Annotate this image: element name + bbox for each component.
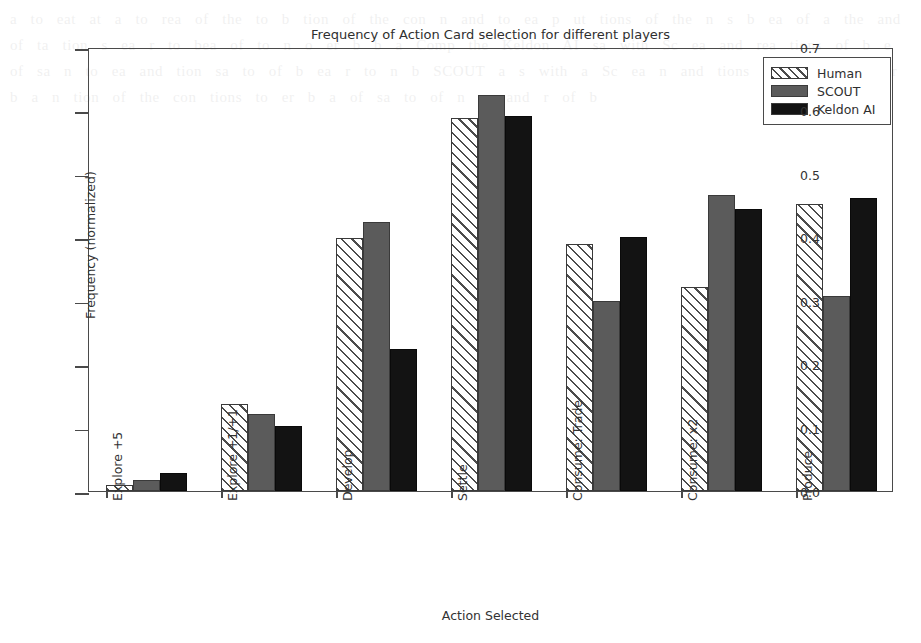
bar-keldon (390, 349, 417, 491)
bar-keldon (850, 198, 877, 491)
y-tick-label: 0.1 (760, 421, 820, 436)
y-tick-mark (75, 176, 89, 178)
bar-human (451, 118, 478, 491)
x-axis-title: Action Selected (88, 608, 893, 623)
x-tick-mark (336, 491, 338, 498)
legend-item-scout[interactable]: SCOUT (771, 82, 883, 100)
y-tick-mark (75, 493, 89, 495)
x-tick-label: Develop (340, 450, 355, 501)
y-tick-label: 0.5 (760, 167, 820, 182)
legend-swatch-human (771, 67, 808, 79)
x-tick-label: Consume: Trade (570, 400, 585, 501)
bar-scout (133, 480, 160, 491)
y-tick-label: 0.6 (760, 104, 820, 119)
x-tick-label: Explore +1/+1 (225, 409, 240, 501)
y-tick-mark (75, 49, 89, 51)
y-tick-mark (75, 239, 89, 241)
bar-scout (593, 301, 620, 491)
x-tick-mark (221, 491, 223, 498)
y-tick-mark (75, 112, 89, 114)
y-tick-mark (75, 366, 89, 368)
y-tick-label: 0.7 (760, 41, 820, 56)
x-tick-label: Settle (455, 464, 470, 501)
x-tick-mark (566, 491, 568, 498)
x-tick-mark (106, 491, 108, 498)
legend-label: Human (817, 66, 862, 81)
y-tick-mark (75, 303, 89, 305)
bar-chart-figure: Frequency of Action Card selection for d… (0, 0, 921, 643)
bar-keldon (275, 426, 302, 491)
legend-item-human[interactable]: Human (771, 64, 883, 82)
bar-scout (478, 95, 505, 491)
y-tick-label: 0.3 (760, 294, 820, 309)
bar-keldon (620, 237, 647, 491)
bar-scout (363, 222, 390, 491)
y-tick-mark (75, 430, 89, 432)
y-tick-label: 0.2 (760, 358, 820, 373)
bar-keldon (735, 209, 762, 491)
legend-label: SCOUT (817, 84, 860, 99)
bar-human (796, 204, 823, 491)
bar-scout (248, 414, 275, 491)
legend-swatch-scout (771, 85, 808, 97)
bar-scout (708, 195, 735, 491)
x-tick-label: Explore +5 (110, 432, 125, 501)
bar-keldon (160, 473, 187, 491)
y-tick-label: 0.4 (760, 231, 820, 246)
x-tick-mark (451, 491, 453, 498)
legend-label: Keldon AI (817, 102, 875, 117)
bar-scout (823, 296, 850, 491)
x-tick-mark (681, 491, 683, 498)
x-tick-label: Consume: x2 (685, 419, 700, 501)
y-tick-label: 0.0 (760, 485, 820, 500)
bar-keldon (505, 116, 532, 491)
